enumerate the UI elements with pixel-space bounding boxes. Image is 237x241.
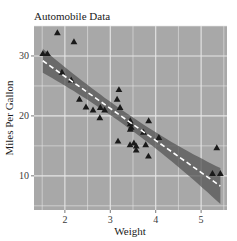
y-tick-label: 20 <box>19 110 29 121</box>
y-tick-label: 30 <box>19 50 29 61</box>
x-axis-ticks: 2345 <box>62 210 203 225</box>
y-tick-label: 10 <box>19 170 29 181</box>
y-axis-ticks: 102030 <box>19 50 34 181</box>
x-tick-label: 4 <box>153 214 158 225</box>
x-tick-label: 2 <box>62 214 67 225</box>
chart-title: Automobile Data <box>34 10 110 22</box>
x-tick-label: 5 <box>199 214 204 225</box>
x-tick-label: 3 <box>108 214 113 225</box>
plot-panel <box>34 26 227 210</box>
y-axis-label: Miles Per Gallon <box>3 80 15 156</box>
x-axis-label: Weight <box>114 225 146 237</box>
scatter-chart: Automobile Data 2345 102030 Weight Miles… <box>0 0 237 241</box>
